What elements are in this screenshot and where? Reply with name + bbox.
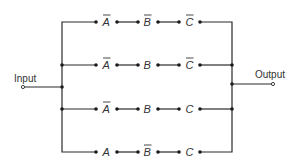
switch-contact-c: C — [177, 146, 202, 158]
switch-rows: ABCABCABCABC — [94, 15, 202, 158]
switch-network-diagram: Input Output ABCABCABCABC — [0, 0, 302, 166]
switch-contact-b: B — [136, 103, 160, 115]
switch-row: ABC — [94, 15, 202, 28]
output-label: Output — [255, 69, 285, 80]
variable-label: C — [186, 103, 194, 115]
output-terminal — [271, 82, 274, 85]
switch-row: ABC — [94, 58, 202, 71]
variable-label: C — [186, 59, 194, 71]
variable-label: C — [186, 16, 194, 28]
variable-label: B — [144, 59, 151, 71]
switch-row: ABC — [94, 102, 202, 115]
switch-contact-a-bar: A — [94, 102, 119, 115]
switch-contact-a: A — [94, 146, 119, 158]
variable-label: A — [102, 59, 110, 71]
switch-contact-c-bar: C — [177, 58, 202, 71]
switch-contact-c-bar: C — [177, 15, 202, 28]
variable-label: B — [144, 16, 151, 28]
switch-contact-b-bar: B — [136, 145, 160, 158]
variable-label: B — [144, 146, 151, 158]
variable-label: B — [144, 103, 151, 115]
input-bus: Input — [14, 22, 96, 152]
switch-contact-b: B — [136, 59, 160, 71]
variable-label: A — [102, 103, 110, 115]
input-label: Input — [14, 73, 36, 84]
switch-row: ABC — [94, 145, 202, 158]
input-terminal — [21, 85, 24, 88]
variable-label: A — [102, 16, 110, 28]
variable-label: C — [186, 146, 194, 158]
switch-contact-a-bar: A — [94, 58, 119, 71]
switch-contact-a-bar: A — [94, 15, 119, 28]
switch-contact-b-bar: B — [136, 15, 160, 28]
variable-label: A — [102, 146, 110, 158]
switch-contact-c: C — [177, 103, 202, 115]
output-bus: Output — [200, 22, 285, 152]
